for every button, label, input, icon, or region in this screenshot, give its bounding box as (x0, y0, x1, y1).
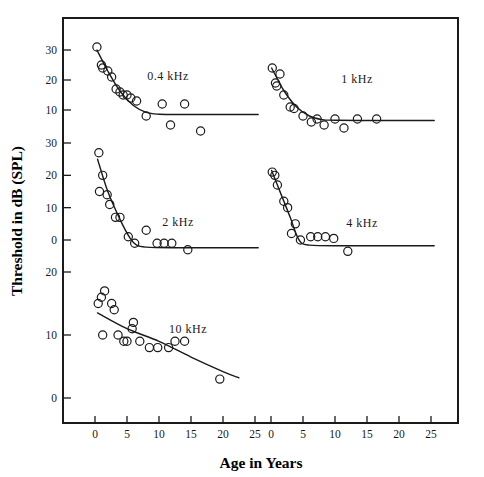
y-tick-label: 20 (46, 169, 58, 181)
x-tick-label: 0 (268, 428, 274, 440)
x-tick-label: 25 (425, 428, 437, 440)
x-tick-label: 20 (217, 428, 229, 440)
panel-label-10-khz: 10 kHz (169, 322, 207, 336)
y-tick-label: 10 (46, 329, 58, 341)
x-tick-label: 5 (300, 428, 306, 440)
y-tick-label: 20 (46, 266, 58, 278)
panel-label-4-khz: 4 kHz (346, 216, 378, 230)
y-tick-label: 10 (46, 104, 58, 116)
y-tick-label: 0 (51, 392, 57, 404)
y-tick-label: 30 (46, 44, 58, 56)
x-tick-label: 10 (329, 428, 341, 440)
y-tick-label: 0 (51, 234, 57, 246)
panel-label-1-khz: 1 kHz (341, 72, 373, 86)
x-tick-label: 5 (124, 428, 130, 440)
figure-root: 05101520250510152025102030010203001020 0… (0, 0, 484, 477)
y-tick-label: 30 (46, 137, 58, 149)
x-tick-label: 0 (92, 428, 98, 440)
x-tick-label: 15 (361, 428, 373, 440)
x-axis-title: Age in Years (220, 454, 303, 471)
x-tick-label: 10 (153, 428, 165, 440)
panel-label-0-4-khz: 0.4 kHz (147, 69, 189, 83)
y-axis-title: Threshold in dB (SPL) (8, 146, 26, 296)
x-tick-label: 20 (393, 428, 405, 440)
chart-background (0, 0, 484, 477)
y-tick-label: 10 (46, 202, 58, 214)
threshold-vs-age-chart: 05101520250510152025102030010203001020 0… (0, 0, 484, 477)
x-tick-label: 15 (185, 428, 197, 440)
panel-label-2-khz: 2 kHz (162, 215, 194, 229)
y-tick-label: 20 (46, 74, 58, 86)
x-tick-label: 25 (249, 428, 261, 440)
